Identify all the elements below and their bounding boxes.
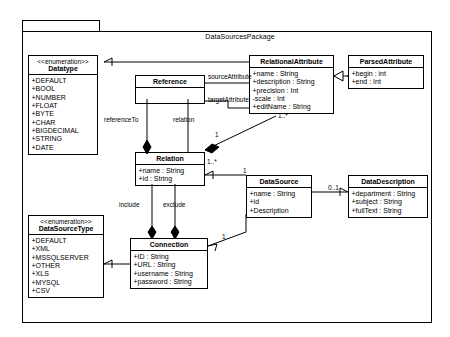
member: +DEFAULT — [32, 237, 102, 245]
member: +BIGDECIMAL — [32, 127, 96, 135]
association-label-source-attribute: sourceAttribute — [208, 73, 252, 80]
package-title: DataSourcesPackage — [150, 33, 330, 40]
member: +department : String — [352, 190, 426, 198]
class-header-reference: Reference — [136, 76, 204, 88]
member: +MSSQLSERVER — [32, 253, 102, 261]
member: +STRING — [32, 135, 96, 143]
class-members-relation: +name : String +id : String — [136, 165, 204, 185]
class-name-datatype: Datatype — [31, 65, 95, 73]
member: +FLOAT — [32, 102, 96, 110]
class-header-data-source: DataSource — [247, 176, 311, 188]
multiplicity-relational-attribute-many: 1..* — [278, 112, 288, 119]
class-members-data-source-type: +DEFAULT +XML +MSSQLSERVER +OTHER +XLS +… — [29, 235, 103, 297]
member: +OTHER — [32, 262, 102, 270]
uml-class-diagram: DataSourcesPackage <<enumeration>> Datat… — [0, 0, 450, 337]
class-name-data-description: DataDescription — [351, 178, 425, 186]
member: +Description — [250, 206, 310, 214]
class-members-reference — [136, 88, 204, 103]
member: +NUMBER — [32, 93, 96, 101]
class-name-reference: Reference — [138, 78, 202, 86]
class-members-data-source: +name : String +id +Description — [247, 188, 311, 216]
member: +editName : String — [253, 103, 332, 111]
multiplicity-datadescription-zero-one: 0..1 — [328, 184, 339, 191]
class-box-reference[interactable]: Reference — [135, 75, 205, 104]
member: +DATE — [32, 143, 96, 151]
class-header-data-source-type: <<enumeration>> DataSourceType — [29, 216, 103, 235]
member: +CSV — [32, 287, 102, 295]
member: +end : Int — [352, 78, 422, 86]
member: +precision : Int — [253, 86, 332, 94]
member: +id — [250, 198, 310, 206]
member: +subject : String — [352, 198, 426, 206]
class-name-data-source-type: DataSourceType — [31, 225, 101, 233]
member: +name : String — [250, 190, 310, 198]
member: +MYSQL — [32, 278, 102, 286]
class-header-relation: Relation — [136, 153, 204, 165]
class-box-connection[interactable]: Connection +ID : String +URL : String +u… — [130, 238, 208, 289]
class-header-parsed-attribute: ParsedAttribute — [349, 56, 423, 68]
member: +XLS — [32, 270, 102, 278]
class-members-relational-attribute: +name : String +description : String +pr… — [250, 68, 333, 113]
stereotype-enumeration-datatype: <<enumeration>> — [31, 58, 95, 65]
class-box-relational-attribute[interactable]: RelationalAttribute +name : String +desc… — [249, 55, 334, 114]
class-box-parsed-attribute[interactable]: ParsedAttribute +begin : int +end : Int — [348, 55, 424, 89]
member: +name : String — [139, 167, 203, 175]
member: +description : String — [253, 78, 332, 86]
association-label-relation: relation — [173, 116, 194, 123]
association-label-exclude: exclude — [163, 201, 185, 208]
class-header-datatype: <<enumeration>> Datatype — [29, 56, 97, 75]
member: +username : String — [134, 269, 206, 277]
class-header-data-description: DataDescription — [349, 176, 427, 188]
class-header-relational-attribute: RelationalAttribute — [250, 56, 333, 68]
association-label-target-attribute: targetAttribute — [208, 96, 249, 103]
member: +CHAR — [32, 118, 96, 126]
stereotype-enumeration-data-source-type: <<enumeration>> — [31, 218, 101, 225]
member: +URL : String — [134, 261, 206, 269]
class-box-data-source[interactable]: DataSource +name : String +id +Descripti… — [246, 175, 312, 218]
association-label-reference-to: referenceTo — [104, 116, 138, 123]
multiplicity-relation-star: 1..* — [207, 158, 217, 165]
class-box-datatype[interactable]: <<enumeration>> Datatype +DEFAULT +BOOL … — [28, 55, 98, 155]
multiplicity-connection-one: 1 — [222, 233, 226, 240]
member: -scale : Int — [253, 95, 332, 103]
class-name-relational-attribute: RelationalAttribute — [252, 58, 331, 66]
class-name-parsed-attribute: ParsedAttribute — [351, 58, 421, 66]
class-members-connection: +ID : String +URL : String +username : S… — [131, 251, 207, 288]
member: +password : String — [134, 278, 206, 286]
member: +fullText : String — [352, 206, 426, 214]
multiplicity-datasource-one: 1 — [243, 167, 247, 174]
member: +XML — [32, 245, 102, 253]
class-box-data-source-type[interactable]: <<enumeration>> DataSourceType +DEFAULT … — [28, 215, 104, 298]
class-members-parsed-attribute: +begin : int +end : Int — [349, 68, 423, 88]
member: +name : String — [253, 70, 332, 78]
member: +DEFAULT — [32, 77, 96, 85]
member: +id : String — [139, 175, 203, 183]
class-name-relation: Relation — [138, 155, 202, 163]
class-name-data-source: DataSource — [249, 178, 309, 186]
multiplicity-relation-one: 1 — [215, 131, 219, 138]
member: +BOOL — [32, 85, 96, 93]
class-members-data-description: +department : String +subject : String +… — [349, 188, 427, 216]
association-label-include: include — [119, 201, 140, 208]
class-name-connection: Connection — [133, 241, 205, 249]
class-box-data-description[interactable]: DataDescription +department : String +su… — [348, 175, 428, 218]
class-header-connection: Connection — [131, 239, 207, 251]
member: +ID : String — [134, 253, 206, 261]
class-box-relation[interactable]: Relation +name : String +id : String — [135, 152, 205, 186]
member: +BYTE — [32, 110, 96, 118]
member: +begin : int — [352, 70, 422, 78]
class-members-datatype: +DEFAULT +BOOL +NUMBER +FLOAT +BYTE +CHA… — [29, 75, 97, 153]
